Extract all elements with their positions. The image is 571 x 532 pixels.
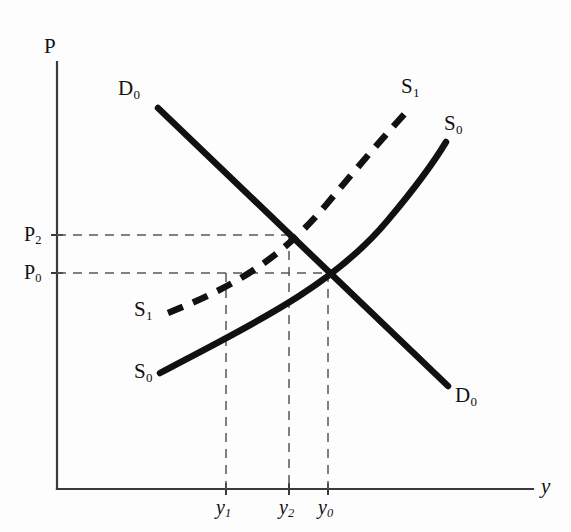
tick-label-base: y <box>318 496 327 518</box>
curve-label-subscript: 0 <box>133 87 140 102</box>
x-axis-title: y <box>541 476 550 497</box>
quantity-tick-label-y2: y2 <box>279 497 294 517</box>
curve-label-supply-base-lower-left: S0 <box>134 361 152 382</box>
tick-label-subscript: 2 <box>35 233 41 247</box>
curve-label-demand-upper-left: D0 <box>118 78 140 99</box>
tick-label-base: y <box>216 496 225 518</box>
curve-label-subscript: 0 <box>456 122 463 137</box>
curve-label-base: S <box>444 111 456 135</box>
price-tick-label-p2: P2 <box>24 224 41 244</box>
tick-label-subscript: 1 <box>225 506 231 520</box>
plot-canvas <box>0 0 571 532</box>
tick-label-base: y <box>279 496 288 518</box>
quantity-tick-label-y1: y1 <box>216 497 231 517</box>
curve-d0-demand <box>158 108 448 386</box>
curve-label-subscript: 1 <box>413 85 420 100</box>
quantity-tick-label-y0: y0 <box>318 497 333 517</box>
curve-label-base: S <box>134 297 146 321</box>
curve-label-subscript: 1 <box>146 308 153 323</box>
supply-demand-figure: P y D0 D0 S1 S0 S1 S0 P2 P0 y1 y2 y0 <box>0 0 571 532</box>
tick-label-subscript: 2 <box>288 506 294 520</box>
guide-lines-group <box>57 235 328 489</box>
curve-label-base: S <box>134 359 146 383</box>
tick-label-subscript: 0 <box>35 271 41 285</box>
curve-label-subscript: 0 <box>470 394 477 409</box>
curve-label-supply-base-upper-right: S0 <box>444 113 462 134</box>
curve-s0-original-supply <box>160 142 446 373</box>
curve-label-base: D <box>118 76 133 100</box>
curve-label-demand-lower-right: D0 <box>455 385 477 406</box>
curve-s1-shifted-supply <box>168 108 410 313</box>
curve-label-subscript: 0 <box>146 370 153 385</box>
curve-label-base: D <box>455 383 470 407</box>
y-axis-title: P <box>44 36 56 57</box>
tick-label-subscript: 0 <box>327 506 333 520</box>
curve-label-supply-shifted-upper-right: S1 <box>401 76 419 97</box>
tick-label-base: P <box>24 261 35 283</box>
curve-label-supply-shifted-lower-left: S1 <box>134 299 152 320</box>
price-tick-label-p0: P0 <box>24 262 41 282</box>
tick-label-base: P <box>24 223 35 245</box>
curve-label-base: S <box>401 74 413 98</box>
